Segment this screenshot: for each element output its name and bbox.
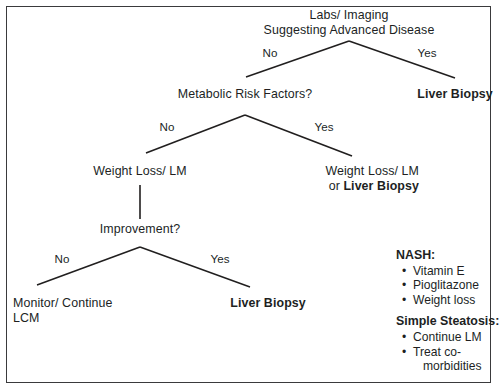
legend-list-nash: •Vitamin E •Pioglitazone •Weight loss	[396, 264, 492, 307]
node-root: Labs/ Imaging Suggesting Advanced Diseas…	[264, 8, 435, 37]
bullet-icon: •	[402, 330, 406, 344]
node-root-line2: Suggesting Advanced Disease	[264, 23, 435, 38]
node-monitor-line1: Monitor/ Continue	[13, 296, 113, 311]
legend-item-label: Weight loss	[413, 293, 475, 307]
bullet-icon: •	[402, 278, 406, 292]
or-word: or	[329, 179, 344, 193]
node-monitor-continue: Monitor/ Continue LCM	[13, 296, 113, 325]
legend-item-label-continued: morbidities	[413, 359, 492, 373]
node-root-line1: Labs/ Imaging	[264, 8, 435, 23]
list-item: •Treat co-morbidities	[396, 345, 492, 374]
edge-label-root-no: No	[263, 46, 278, 59]
list-item: •Vitamin E	[396, 264, 492, 278]
node-weight-loss-right: Weight Loss/ LM	[325, 164, 419, 179]
node-liver-biopsy-right: Liver Biopsy	[343, 179, 419, 193]
legend-list-simple-steatosis: •Continue LM •Treat co-morbidities	[396, 330, 492, 373]
node-or-liver-biopsy: or Liver Biopsy	[325, 179, 419, 194]
treatment-legend: NASH: •Vitamin E •Pioglitazone •Weight l…	[396, 248, 492, 373]
list-item: •Pioglitazone	[396, 278, 492, 292]
edge-label-metabolic-no: No	[160, 120, 175, 133]
edge-label-improvement-no: No	[55, 252, 70, 265]
node-metabolic-risk: Metabolic Risk Factors?	[178, 87, 313, 102]
legend-item-label: Vitamin E	[413, 264, 465, 278]
node-liver-biopsy-top: Liver Biopsy	[417, 87, 493, 102]
bullet-icon: •	[402, 345, 406, 359]
legend-heading-nash: NASH:	[396, 248, 492, 263]
edge-label-improvement-yes: Yes	[211, 252, 230, 265]
bullet-icon: •	[402, 264, 406, 278]
legend-item-label: Pioglitazone	[413, 278, 479, 292]
node-monitor-line2: LCM	[13, 311, 113, 326]
bullet-icon: •	[402, 293, 406, 307]
edge-label-metabolic-yes: Yes	[315, 120, 334, 133]
figure-canvas: Labs/ Imaging Suggesting Advanced Diseas…	[0, 0, 503, 391]
node-improvement: Improvement?	[100, 222, 180, 237]
legend-item-label: Treat co-	[413, 345, 461, 359]
node-weight-loss-left: Weight Loss/ LM	[93, 164, 187, 179]
list-item: •Weight loss	[396, 293, 492, 307]
edge-label-root-yes: Yes	[418, 46, 437, 59]
legend-heading-simple-steatosis: Simple Steatosis:	[396, 314, 492, 329]
legend-item-label: Continue LM	[413, 330, 482, 344]
list-item: •Continue LM	[396, 330, 492, 344]
node-liver-biopsy-bottom: Liver Biopsy	[230, 296, 306, 311]
node-weight-loss-or-biopsy: Weight Loss/ LM or Liver Biopsy	[325, 164, 419, 193]
